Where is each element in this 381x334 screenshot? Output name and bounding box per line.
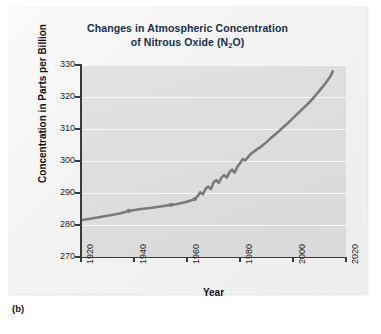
y-tick-310 [75,128,81,129]
data-point-marker-1938 [127,209,131,213]
x-axis-title: Year [81,287,346,298]
x-tick-label-1920: 1920 [85,244,95,264]
x-tick-label-1980: 1980 [244,244,254,264]
data-line-layer [81,65,346,257]
chart-title-line2-pre: of Nitrous Oxide (N [131,36,229,48]
n2o-concentration-line [81,71,333,220]
y-tick-300 [75,160,81,161]
y-tick-320 [75,96,81,97]
figure-panel: Changes in Atmospheric Concentration of … [8,6,367,294]
data-point-marker-1963 [193,197,197,201]
data-point-marker-1955 [169,203,173,207]
chart-title-line1: Changes in Atmospheric Concentration [87,22,288,34]
x-tick-label-2000: 2000 [297,244,307,264]
panel-caption: (b) [12,303,24,314]
x-tick-label-2020: 2020 [350,244,360,264]
chart-title-line2-post: O) [232,36,244,48]
y-tick-label-280: 280 [35,219,75,229]
x-tick-2020 [345,257,346,262]
chart-title-subscript: 2 [228,41,232,50]
plot-area-wrapper [81,65,346,257]
y-axis-title: Concentration in Parts per Billion [37,9,48,199]
chart-title: Changes in Atmospheric Concentration of … [8,22,367,50]
y-tick-290 [75,192,81,193]
x-tick-2000 [292,257,293,262]
x-tick-1920 [80,257,81,262]
x-tick-label-1940: 1940 [138,244,148,264]
y-tick-280 [75,224,81,225]
x-tick-1980 [239,257,240,262]
y-tick-label-270: 270 [35,251,75,261]
x-tick-1960 [186,257,187,262]
y-tick-330 [75,64,81,65]
x-tick-1940 [133,257,134,262]
x-tick-label-1960: 1960 [191,244,201,264]
